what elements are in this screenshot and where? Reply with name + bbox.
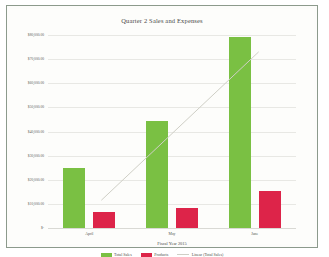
y-axis-tick-label: $80,000.00 — [28, 33, 44, 37]
y-axis-tick-label: $60,000.00 — [28, 81, 44, 85]
plot-area: $-$10,000.00$20,000.00$30,000.00$40,000.… — [48, 35, 296, 228]
chart-legend: Total SalesProductsLinear (Total Sales) — [10, 252, 314, 257]
y-axis-tick-label: $- — [41, 226, 44, 230]
x-axis-category-label: June — [213, 232, 296, 236]
y-axis-tick-label: $20,000.00 — [28, 178, 44, 182]
legend-label: Linear (Total Sales) — [192, 252, 224, 257]
bar-products[interactable] — [259, 191, 281, 228]
bar-group: May — [131, 35, 214, 228]
x-axis-category-label: April — [48, 232, 131, 236]
legend-item[interactable]: Total Sales — [101, 252, 132, 257]
chart-canvas: Quarter 2 Sales and Expenses $-$10,000.0… — [10, 9, 314, 244]
legend-label: Total Sales — [114, 252, 132, 257]
legend-swatch-icon — [101, 253, 112, 257]
y-axis-tick-label: $30,000.00 — [28, 154, 44, 158]
legend-label: Products — [154, 252, 168, 257]
chart-frame: Quarter 2 Sales and Expenses $-$10,000.0… — [6, 5, 318, 248]
bar-products[interactable] — [93, 212, 115, 228]
chart-title: Quarter 2 Sales and Expenses — [10, 17, 314, 24]
bar-group: June — [213, 35, 296, 228]
y-axis-tick-label: $10,000.00 — [28, 202, 44, 206]
bar-group: April — [48, 35, 131, 228]
bar-total-sales[interactable] — [146, 121, 168, 228]
y-axis-tick-label: $50,000.00 — [28, 105, 44, 109]
bar-total-sales[interactable] — [229, 37, 251, 228]
legend-line-icon — [177, 254, 189, 255]
y-axis-tick-label: $70,000.00 — [28, 57, 44, 61]
y-axis-tick-label: $40,000.00 — [28, 130, 44, 134]
gridline — [48, 228, 296, 229]
legend-swatch-icon — [141, 253, 152, 257]
legend-item[interactable]: Linear (Total Sales) — [177, 252, 223, 257]
bar-products[interactable] — [176, 208, 198, 229]
x-axis-title: Fiscal Year 2015 — [48, 241, 296, 246]
x-axis-category-label: May — [131, 232, 214, 236]
bar-total-sales[interactable] — [63, 168, 85, 228]
legend-item[interactable]: Products — [141, 252, 169, 257]
